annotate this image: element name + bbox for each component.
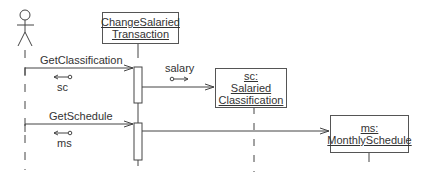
object-label-line: Salaried bbox=[231, 82, 271, 94]
object-salaried-classification: sc: Salaried Classification bbox=[215, 68, 287, 108]
return-token-sc-icon bbox=[54, 75, 72, 79]
object-label-line: Transaction bbox=[112, 28, 169, 40]
object-change-salaried-transaction: ChangeSalaried Transaction bbox=[102, 12, 179, 44]
activation-bar-1 bbox=[134, 67, 142, 103]
return-token-ms-icon bbox=[54, 131, 72, 135]
object-monthly-schedule: ms: MonthlySchedule bbox=[330, 115, 409, 153]
message-label-get-classification: GetClassification bbox=[40, 54, 123, 67]
object-label-line: ms: bbox=[361, 122, 379, 134]
object-label-line: MonthlySchedule bbox=[327, 134, 411, 146]
activation-bar-2 bbox=[134, 123, 142, 160]
token-label-ms: ms bbox=[57, 137, 72, 150]
object-label-line: ChangeSalaried bbox=[101, 16, 180, 28]
object-label-line: sc: bbox=[244, 70, 258, 82]
object-label-line: Classification bbox=[219, 94, 284, 106]
token-label-salary: salary bbox=[165, 62, 194, 75]
token-label-sc: sc bbox=[57, 81, 68, 94]
message-label-get-schedule: GetSchedule bbox=[49, 110, 113, 123]
param-token-salary-icon bbox=[170, 77, 188, 81]
actor-icon bbox=[17, 10, 34, 46]
